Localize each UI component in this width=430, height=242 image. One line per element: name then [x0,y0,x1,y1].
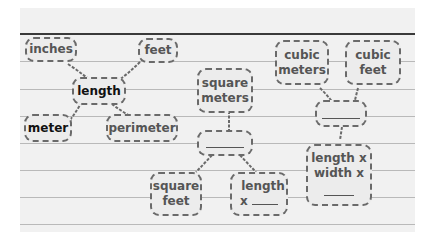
node-perimeter: perimeter [106,114,178,142]
blank-answer-line[interactable] [252,204,278,205]
blank-answer-line[interactable] [324,195,354,196]
node-volume-blank[interactable] [315,100,367,127]
node-label: feet [359,63,386,78]
node-feet: feet [138,38,178,63]
node-label: inches [29,42,73,57]
node-square-meters: square meters [197,68,253,113]
node-inches: inches [25,37,77,62]
node-label: meters [201,91,249,106]
node-label-with-blank: x [240,194,278,209]
blank-answer-line[interactable] [322,118,360,119]
node-label: width x [314,166,364,181]
node-label: perimeter [108,121,175,136]
node-label: feet [162,194,189,209]
node-label: x [240,194,248,208]
node-square-feet: square feet [150,172,202,216]
node-label: square [202,76,248,91]
blank-answer-line[interactable] [206,147,244,148]
node-area-blank[interactable] [197,130,253,156]
node-label: cubic [284,48,319,63]
node-cubic-meters: cubic meters [275,40,329,85]
node-length-width-x: length x width x [306,144,372,206]
node-label: meter [28,121,68,136]
node-label: length x [311,151,367,166]
node-label: cubic [355,48,390,63]
node-length: length [72,77,126,105]
node-label: square [153,179,199,194]
node-cubic-feet: cubic feet [345,40,401,85]
node-label: length [77,84,121,99]
node-length-x: length x [230,172,288,216]
node-meter: meter [24,114,72,142]
node-label: length [241,179,285,194]
node-label: meters [278,63,326,78]
node-label: feet [144,43,171,58]
